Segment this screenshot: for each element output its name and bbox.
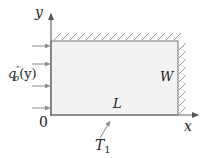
x-axis-label: x	[184, 118, 192, 134]
length-label: L	[112, 96, 122, 111]
origin-label: 0	[39, 114, 48, 130]
right-insulation-hatch	[179, 43, 186, 114]
y-axis-label: y	[34, 4, 44, 20]
heat-flux-label: q″o(y)	[8, 65, 37, 83]
t1-pointer-arrow	[100, 121, 110, 138]
top-insulation-hatch	[54, 33, 181, 40]
temperature-label: T1	[95, 137, 111, 155]
width-label: W	[160, 69, 175, 84]
diagram-canvas: y x 0 q″o(y) W L T1	[0, 0, 210, 158]
